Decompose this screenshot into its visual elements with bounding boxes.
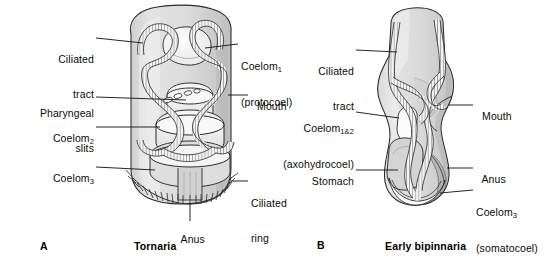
label-ciliated-ring-line2: ring — [251, 233, 321, 245]
label-coelom3-b-line2: (somatocoel) — [476, 243, 554, 255]
label-coelom3-b-subscript: 3 — [513, 211, 517, 220]
label-pharyngeal-slits-line1: Pharyngeal — [2, 108, 94, 120]
label-coelom3-a-subscript: 3 — [90, 177, 94, 186]
label-ciliated-tract-b-line1: Ciliated — [268, 66, 354, 78]
label-coelom3-b-line1: Coelom3 — [476, 207, 554, 220]
label-coelom2-text: Coelom — [53, 132, 90, 144]
label-coelom2-subscript: 2 — [90, 137, 94, 146]
label-mouth-b: Mouth — [476, 99, 550, 122]
label-coelom1and2-text: Coelom — [304, 122, 341, 134]
pharyngeal-slit-4 — [194, 89, 201, 94]
panel-letter-b: B — [317, 239, 325, 251]
label-coelom3-a-text: Coelom — [53, 172, 90, 184]
label-coelom3-b-text: Coelom — [476, 206, 513, 218]
caption-early-bipinnaria: Early bipinnaria — [385, 240, 466, 252]
panel-letter-a: A — [40, 240, 48, 252]
larval-comparison-figure: Ciliated tract Pharyngeal slits Coelom2 … — [0, 0, 554, 266]
label-stomach-text: Stomach — [312, 175, 354, 187]
caption-tornaria: Tornaria — [134, 240, 176, 252]
label-mouth-b-text: Mouth — [482, 110, 512, 122]
label-anus-a-text: Anus — [181, 233, 205, 245]
label-coelom3-b: Coelom3 (somatocoel) — [476, 184, 554, 266]
label-coelom3-a: Coelom3 — [6, 161, 94, 185]
label-coelom1and2-subscript: 1&2 — [340, 127, 354, 136]
label-ciliated-ring: Ciliated ring — [251, 175, 321, 256]
label-anus-b-text: Anus — [481, 173, 505, 185]
label-stomach: Stomach — [274, 164, 354, 187]
label-ciliated-tract-a-line1: Ciliated — [6, 54, 94, 66]
label-anus-b: Anus — [476, 162, 550, 185]
label-coelom1and2-line1: Coelom1&2 — [252, 123, 354, 136]
stomach-rim-top — [156, 115, 224, 135]
label-ciliated-ring-line1: Ciliated — [251, 198, 321, 210]
label-coelom2: Coelom2 — [6, 121, 94, 145]
